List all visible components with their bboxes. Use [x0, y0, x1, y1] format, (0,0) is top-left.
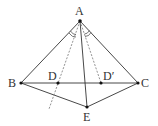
angle-arc-DpAC — [85, 31, 90, 35]
point-B — [19, 81, 22, 84]
point-D — [56, 81, 59, 84]
dashed-segment-AD-prime — [80, 21, 101, 83]
label-C: C — [141, 76, 149, 90]
point-A — [78, 19, 82, 23]
label-A: A — [75, 4, 84, 18]
label-E: E — [83, 110, 90, 124]
segment-CE — [87, 83, 138, 107]
angle-arc-DpAC-2 — [85, 33, 91, 37]
point-E — [85, 105, 88, 108]
label-B: B — [8, 76, 16, 90]
geometry-diagram: A B C D D′ E — [0, 0, 158, 126]
angle-arc-BAD — [71, 31, 77, 35]
label-D: D — [48, 69, 57, 83]
point-C — [136, 81, 139, 84]
label-D-prime: D′ — [103, 69, 115, 83]
